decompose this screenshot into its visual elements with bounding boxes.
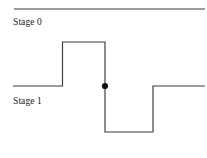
stage-1-waveform-path — [13, 42, 205, 132]
stage-0-label: Stage 0 — [13, 18, 42, 28]
transition-marker-dot — [102, 83, 108, 89]
timing-diagram-figure: Stage 0 Stage 1 — [0, 0, 207, 158]
stage-1-label: Stage 1 — [13, 97, 42, 107]
